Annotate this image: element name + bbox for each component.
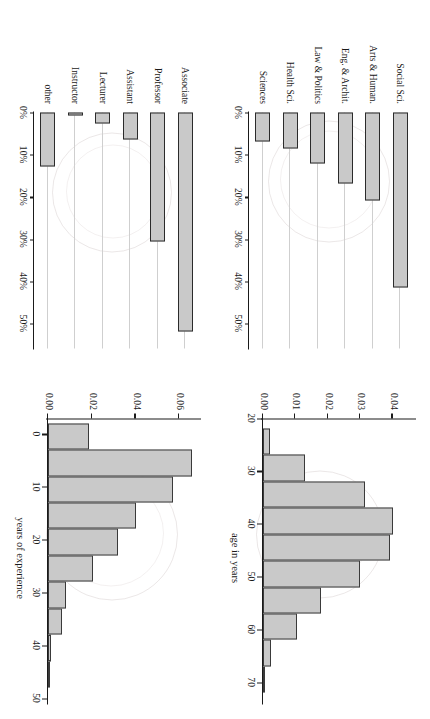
x-axis-tick-label: 50% [233,314,243,332]
histogram-bar [48,502,136,528]
x-axis-tick [30,112,34,113]
category-guide-line [74,112,75,348]
bar [95,112,110,123]
x-axis-tick [43,433,48,434]
category-label: Arts & Human. [366,45,380,104]
category-label: Lecturer [96,71,110,103]
bar [310,112,325,163]
histogram-bar [48,608,62,634]
x-axis-tick [30,281,34,282]
x-axis-tick-label: 10% [18,145,28,163]
panel-academic-rank: AssociateProfessorAssistantLecturerInstr… [0,0,215,360]
x-axis-tick-label: 30% [18,230,28,248]
x-axis-tick [43,698,48,699]
x-axis-tick [258,629,263,630]
x-axis-tick [258,576,263,577]
y-axis-tick-label: 0.00 [44,360,54,410]
histogram-bar [48,423,89,449]
y-axis-tick [91,413,92,418]
panel-experience-histogram: 01020304050years of experience0.000.020.… [0,360,215,719]
y-axis-line [261,418,416,419]
x-axis-line [47,416,48,704]
y-axis-tick [47,413,48,418]
x-axis-tick [245,196,249,197]
x-axis-tick-label: 10% [233,145,243,163]
figure-canvas: Social Sci.Arts & Human.Eng. & Archit.La… [0,0,430,719]
histogram-bar [48,528,118,554]
panel-age-histogram: 203040506070age in years0.000.010.020.03… [215,360,430,719]
bar [283,112,298,148]
x-axis-tick [245,281,249,282]
histogram-bar [48,634,51,660]
category-guide-line [129,112,130,348]
histogram-bar [263,428,270,454]
x-axis-tick-label: 20% [233,188,243,206]
x-axis-tick-label: 20 [246,413,256,423]
x-axis-tick-label: 20% [18,188,28,206]
x-axis-tick-label: 40 [31,640,41,650]
y-axis-tick [391,413,392,418]
y-axis-tick [262,413,263,418]
x-axis-tick [258,682,263,683]
x-axis-tick [30,196,34,197]
y-axis-tick [359,413,360,418]
histogram-bar [263,481,365,507]
y-axis-tick [294,413,295,418]
histogram-bar [263,454,305,480]
x-axis-tick [245,239,249,240]
histogram-bar [263,613,297,639]
y-axis-tick-label: 0.02 [88,360,98,410]
x-axis-tick-label: 10 [31,481,41,491]
bar [255,112,270,141]
histogram-bar [48,581,66,607]
bar [40,112,55,166]
y-axis-tick-label: 0.01 [291,360,301,410]
x-axis-tick [258,470,263,471]
histogram-bar [263,639,271,665]
x-axis-tick-label: 40 [246,518,256,528]
category-label: Assistant [123,69,137,104]
histogram-bar [48,661,50,687]
category-label: Associate [178,67,192,104]
category-guide-line [262,112,263,348]
x-axis-tick-label: 30 [246,465,256,475]
x-axis-tick [43,645,48,646]
histogram-bar [48,555,93,581]
bar [338,112,353,183]
histogram-bar [263,534,390,560]
y-axis-tick [327,413,328,418]
x-axis-tick-label: 30% [233,230,243,248]
x-axis-tick-label: 50 [31,693,41,703]
x-axis-line [262,416,263,704]
x-axis-title: age in years [230,532,241,582]
x-axis-line [248,111,249,349]
histogram-bar [263,560,360,586]
bar [178,112,193,331]
category-label: Eng. & Archit. [338,48,352,104]
x-axis-tick [30,323,34,324]
x-axis-tick-label: 50% [18,314,28,332]
y-axis-tick-label: 0.00 [259,360,269,410]
x-axis-tick-label: 20 [31,534,41,544]
y-axis-tick-label: 0.04 [389,360,399,410]
x-axis-tick-label: 40% [18,272,28,290]
category-label: other [41,84,55,104]
x-axis-tick [43,486,48,487]
x-axis-tick [245,112,249,113]
category-label: Instructor [68,67,82,104]
histogram-bar [263,507,393,533]
y-axis-tick-label: 0.04 [132,360,142,410]
y-axis-tick-label: 0.02 [324,360,334,410]
x-axis-title: years of experience [15,517,26,599]
y-axis-tick-label: 0.06 [175,360,185,410]
x-axis-tick-label: 0 [31,431,41,436]
x-axis-tick-label: 40% [233,272,243,290]
x-axis-tick-label: 70 [246,677,256,687]
x-axis-tick-label: 60 [246,624,256,634]
x-axis-tick-label: 0% [18,106,28,119]
category-label: Professor [151,68,165,104]
y-axis-tick [134,413,135,418]
category-label: Law & Politics [311,46,325,104]
category-guide-line [102,112,103,348]
x-axis-tick-label: 50 [246,571,256,581]
